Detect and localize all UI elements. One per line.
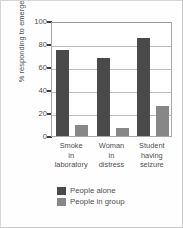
legend-item: People in group [57, 197, 125, 206]
x-category-label-line: Smoke [51, 141, 91, 151]
y-tick-label: 100 [27, 18, 47, 26]
y-tick-label: 40 [27, 87, 47, 95]
x-axis-category-labels: SmokeinlaboratoryWomanindistressStudenth… [51, 141, 172, 170]
x-category-label: Smokeinlaboratory [51, 141, 91, 170]
x-category-label-line: in [91, 151, 131, 161]
y-axis-tick-labels: 020406080100 [25, 1, 47, 228]
x-category-label: Womanindistress [91, 141, 131, 170]
plot-area [51, 22, 172, 137]
x-category-label-line: Woman [91, 141, 131, 151]
legend-label: People in group [70, 197, 125, 206]
bar [97, 58, 110, 136]
bar [56, 50, 69, 136]
x-category-label-line: Student [132, 141, 172, 151]
bar [75, 125, 88, 137]
y-tick-label: 0 [27, 133, 47, 141]
x-category-label-line: having [132, 151, 172, 161]
x-category-label-line: distress [91, 160, 131, 170]
y-tick-label: 80 [27, 41, 47, 49]
x-category-label-line: laboratory [51, 160, 91, 170]
chart-legend: People alonePeople in group [57, 186, 125, 208]
y-tick-label: 20 [27, 110, 47, 118]
bar [156, 106, 169, 136]
legend-swatch [57, 198, 66, 206]
bar [137, 38, 150, 136]
x-category-label-line: in [51, 151, 91, 161]
x-category-label-line: seizure [132, 160, 172, 170]
legend-item: People alone [57, 186, 125, 195]
legend-label: People alone [70, 186, 116, 195]
x-category-label: Studenthavingseizure [132, 141, 172, 170]
y-tick-label: 60 [27, 64, 47, 72]
legend-swatch [57, 187, 66, 195]
bar-chart-figure: % responding to emergency 020406080100 S… [0, 0, 183, 228]
bar [116, 128, 129, 136]
bars-container [52, 23, 171, 136]
